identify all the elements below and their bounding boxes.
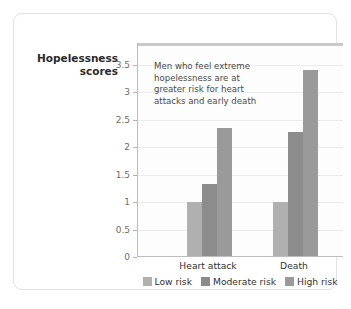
annotation-line-1: Men who feel extreme (154, 61, 262, 73)
bar (202, 184, 217, 257)
legend-label: Moderate risk (213, 276, 276, 287)
annotation-line-3: greater risk for heart (154, 84, 262, 96)
y-axis-tick-label: 2 (90, 142, 130, 152)
bar (303, 70, 318, 257)
bar (273, 202, 288, 257)
bar (217, 128, 232, 257)
y-axis-tick-label: 1 (90, 197, 130, 207)
y-axis-tick-label: 2.5 (90, 115, 130, 125)
bar (288, 132, 303, 257)
legend-swatch-icon (143, 277, 152, 286)
x-axis-category-label: Heart attack (179, 260, 236, 271)
x-axis-category-label: Death (280, 260, 308, 271)
y-axis-tick-label: 3.5 (90, 60, 130, 70)
legend-item[interactable]: High risk (285, 276, 337, 287)
chart-legend: Low riskModerate riskHigh risk (137, 276, 343, 287)
legend-label: Low risk (155, 276, 192, 287)
y-axis-tick-label: 0 (90, 252, 130, 262)
legend-label: High risk (297, 276, 337, 287)
y-axis-tick-label: 0.5 (90, 225, 130, 235)
legend-item[interactable]: Low risk (143, 276, 192, 287)
y-axis-tick-label: 3 (90, 87, 130, 97)
legend-item[interactable]: Moderate risk (201, 276, 276, 287)
legend-swatch-icon (201, 277, 210, 286)
legend-swatch-icon (285, 277, 294, 286)
chart-annotation: Men who feel extreme hopelessness are at… (154, 61, 262, 107)
chart-card: Hopelessness scores 00.511.522.533.5 Men… (13, 13, 337, 290)
y-axis-tick-mark (133, 257, 137, 258)
y-axis-tick-label: 1.5 (90, 170, 130, 180)
bar (187, 202, 202, 257)
annotation-line-2: hopelessness are at (154, 73, 262, 85)
x-axis-line (137, 256, 343, 257)
plot-top-band (138, 43, 343, 46)
annotation-line-4: attacks and early death (154, 96, 262, 108)
